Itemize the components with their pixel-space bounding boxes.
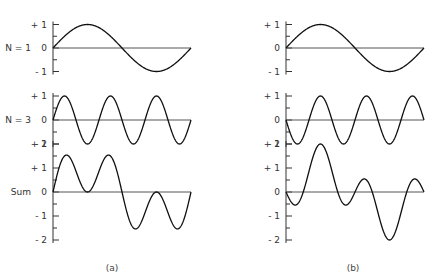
subplot-3: + 2+ 10- 1- 2 [264, 139, 424, 245]
panel-a: + 10- 1N = 1+ 10- 1N = 3+ 2+ 10- 1- 2Sum… [5, 20, 191, 274]
panel-b: + 10- 1+ 10- 1+ 2+ 10- 1- 2(b) [264, 20, 424, 274]
y-tick-label: - 2 [268, 235, 280, 245]
y-tick-label: + 2 [264, 139, 280, 149]
y-tick-label: 0 [41, 187, 47, 197]
y-tick-label: + 1 [31, 163, 47, 173]
y-tick-label: - 1 [35, 67, 47, 77]
y-tick-label: - 1 [268, 67, 280, 77]
y-tick-label: - 1 [268, 211, 280, 221]
subplot-2: + 10- 1 [264, 91, 424, 149]
row-label: N = 1 [5, 43, 31, 53]
row-label: Sum [11, 187, 31, 197]
row-label: N = 3 [5, 115, 31, 125]
y-tick-label: 0 [274, 187, 280, 197]
y-tick-label: + 1 [31, 20, 47, 30]
y-tick-label: 0 [41, 115, 47, 125]
y-tick-label: 0 [41, 43, 47, 53]
y-tick-label: + 1 [264, 20, 280, 30]
y-tick-label: 0 [274, 43, 280, 53]
y-tick-label: + 1 [264, 163, 280, 173]
y-tick-label: - 1 [35, 211, 47, 221]
subplot-3: + 2+ 10- 1- 2Sum [11, 139, 191, 245]
panel-caption: (b) [347, 263, 360, 273]
y-tick-label: + 1 [264, 91, 280, 101]
subplot-1: + 10- 1 [264, 20, 424, 77]
y-tick-label: - 2 [35, 235, 47, 245]
figure: + 10- 1N = 1+ 10- 1N = 3+ 2+ 10- 1- 2Sum… [0, 0, 439, 277]
y-tick-label: + 1 [31, 91, 47, 101]
y-tick-label: + 2 [31, 139, 47, 149]
y-tick-label: 0 [274, 115, 280, 125]
subplot-1: + 10- 1N = 1 [5, 20, 191, 77]
panel-caption: (a) [106, 263, 119, 273]
